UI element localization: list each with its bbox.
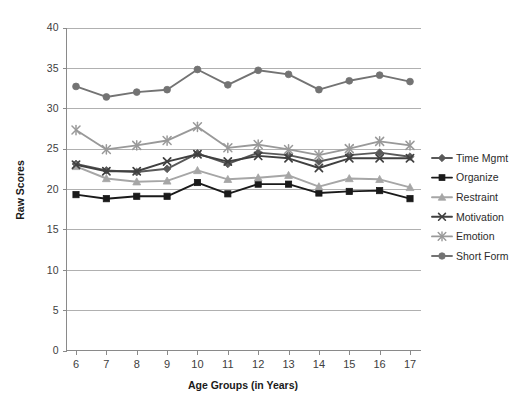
series-group — [72, 66, 414, 202]
legend-item-time-mgmt[interactable]: Time Mgmt — [432, 152, 508, 164]
series-organize — [73, 179, 413, 201]
marker-square — [164, 193, 170, 199]
marker-circle — [255, 67, 262, 74]
marker-circle — [224, 81, 231, 88]
legend-label: Time Mgmt — [456, 152, 508, 164]
marker-triangle — [194, 167, 202, 174]
x-tick-label: 9 — [164, 358, 170, 370]
y-tick-label: 25 — [47, 142, 59, 154]
x-tick-label: 15 — [343, 358, 355, 370]
series-line — [76, 153, 410, 172]
marker-circle — [316, 86, 323, 93]
y-tick-label: 0 — [53, 344, 59, 356]
marker-diamond — [163, 165, 171, 173]
marker-square — [194, 179, 200, 185]
x-tick-label: 10 — [191, 358, 203, 370]
x-tick-label: 6 — [73, 358, 79, 370]
marker-square — [407, 196, 413, 202]
legend-label: Organize — [456, 171, 499, 183]
series-line — [76, 69, 410, 96]
marker-square — [225, 191, 231, 197]
x-axis-title: Age Groups (in Years) — [188, 379, 298, 391]
y-axis-title: Raw Scores — [14, 160, 26, 220]
legend-item-emotion[interactable]: Emotion — [432, 230, 495, 242]
y-axis-tick-labels: 0510152025303540 — [47, 21, 59, 356]
x-axis-tick-labels: 67891011121314151617 — [73, 358, 416, 370]
marker-square — [377, 188, 383, 194]
legend-item-organize[interactable]: Organize — [432, 171, 499, 183]
marker-square — [255, 181, 261, 187]
y-tick-label: 30 — [47, 102, 59, 114]
marker-circle — [439, 253, 445, 259]
legend-item-motivation[interactable]: Motivation — [432, 211, 504, 223]
legend-item-short-form[interactable]: Short Form — [432, 250, 509, 262]
y-tick-label: 10 — [47, 264, 59, 276]
marker-circle — [164, 86, 171, 93]
marker-circle — [103, 94, 110, 101]
legend-label: Restraint — [456, 191, 498, 203]
x-tick-label: 12 — [252, 358, 264, 370]
line-chart: 0510152025303540 67891011121314151617 Ti… — [0, 0, 529, 409]
legend-item-restraint[interactable]: Restraint — [432, 191, 498, 203]
marker-square — [103, 196, 109, 202]
x-tick-label: 16 — [374, 358, 386, 370]
x-tick-label: 14 — [313, 358, 325, 370]
marker-diamond — [438, 154, 445, 161]
marker-circle — [376, 72, 383, 79]
marker-asterisk — [193, 122, 201, 131]
series-short-form — [73, 66, 414, 100]
y-tick-label: 40 — [47, 21, 59, 33]
marker-asterisk — [72, 125, 80, 134]
legend-label: Short Form — [456, 250, 509, 262]
marker-square — [285, 181, 291, 187]
y-tick-label: 20 — [47, 183, 59, 195]
series-line — [76, 183, 410, 199]
marker-circle — [407, 78, 414, 85]
chart-canvas: 0510152025303540 67891011121314151617 Ti… — [0, 0, 529, 409]
x-tick-label: 7 — [103, 358, 109, 370]
marker-circle — [285, 71, 292, 78]
marker-square — [316, 190, 322, 196]
series-restraint — [72, 162, 414, 190]
series-line — [76, 166, 410, 187]
marker-circle — [133, 89, 140, 96]
legend: Time MgmtOrganizeRestraintMotivationEmot… — [432, 152, 509, 262]
x-tick-label: 17 — [404, 358, 416, 370]
x-tick-label: 8 — [134, 358, 140, 370]
legend-label: Emotion — [456, 230, 495, 242]
series-line — [76, 127, 410, 155]
legend-label: Motivation — [456, 211, 504, 223]
x-tick-label: 13 — [282, 358, 294, 370]
marker-square — [73, 192, 79, 198]
gridlines — [67, 29, 421, 311]
marker-square — [134, 193, 140, 199]
y-tick-label: 35 — [47, 62, 59, 74]
y-tick-label: 15 — [47, 223, 59, 235]
marker-circle — [194, 66, 201, 73]
marker-circle — [346, 77, 353, 84]
series-line — [76, 154, 410, 171]
marker-square — [346, 188, 352, 194]
y-tick-label: 5 — [53, 304, 59, 316]
x-tick-label: 11 — [222, 358, 233, 370]
marker-square — [439, 175, 445, 181]
marker-circle — [73, 83, 80, 90]
